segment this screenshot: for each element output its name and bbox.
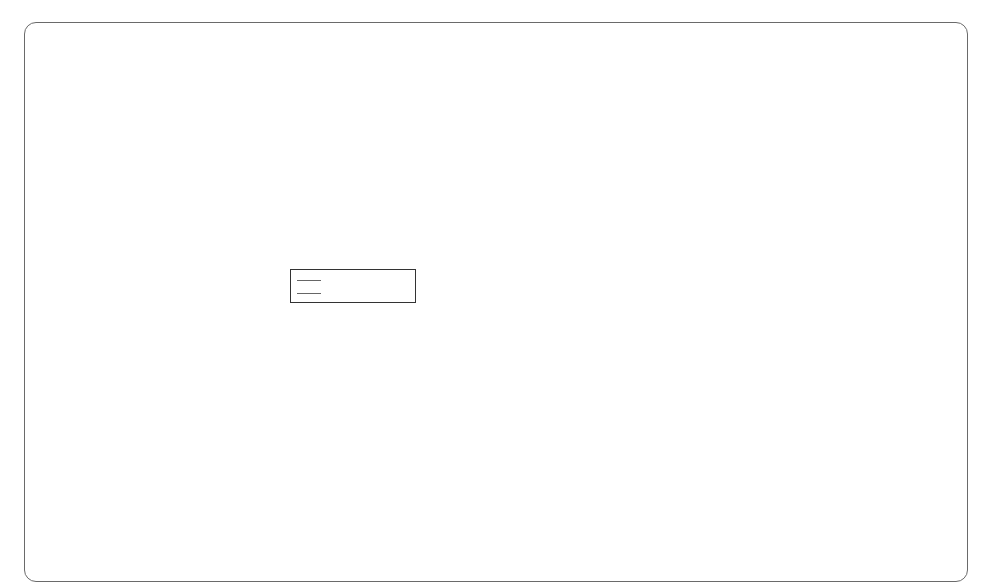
legend-line-icon [297, 280, 321, 281]
legend-line-icon [297, 293, 321, 294]
chart-legend [290, 269, 416, 303]
legend-item-bipartite [297, 274, 327, 286]
legend-item-projected [297, 287, 327, 299]
